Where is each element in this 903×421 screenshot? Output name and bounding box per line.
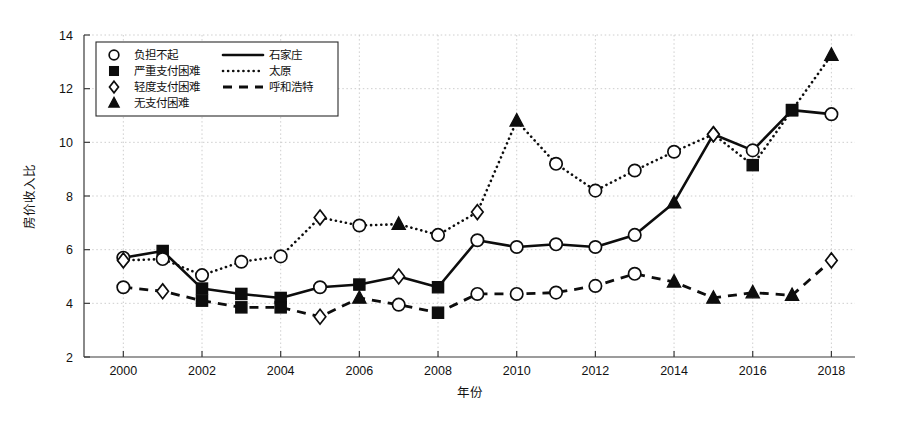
marker-circle-open bbox=[511, 241, 523, 253]
x-tick-label: 2000 bbox=[109, 364, 137, 378]
x-tick-label: 2018 bbox=[817, 364, 845, 378]
marker-diamond-open bbox=[826, 253, 838, 268]
marker-circle-open bbox=[589, 241, 601, 253]
x-tick-label: 2012 bbox=[581, 364, 609, 378]
x-tick-label: 2010 bbox=[503, 364, 531, 378]
marker-circle-open bbox=[747, 144, 759, 156]
marker-circle-open bbox=[235, 256, 247, 268]
marker-circle-open bbox=[471, 288, 483, 300]
marker-circle-open bbox=[471, 234, 483, 246]
series-呼和浩特 bbox=[117, 253, 837, 324]
marker-square-filled bbox=[236, 302, 247, 313]
marker-circle-open bbox=[353, 219, 365, 231]
y-tick-label: 4 bbox=[66, 297, 73, 311]
marker-circle-open bbox=[117, 281, 129, 293]
y-tick-label: 14 bbox=[59, 29, 73, 43]
marker-circle-open bbox=[629, 164, 641, 176]
marker-square-filled bbox=[786, 105, 797, 116]
marker-circle-open bbox=[314, 281, 326, 293]
marker-circle-open bbox=[392, 298, 404, 310]
legend-line-label: 石家庄 bbox=[269, 48, 302, 62]
marker-circle-open bbox=[629, 268, 641, 280]
marker-square-filled bbox=[747, 160, 758, 171]
marker-circle-open bbox=[668, 146, 680, 158]
y-tick-label: 2 bbox=[66, 351, 73, 365]
marker-circle-open bbox=[589, 280, 601, 292]
legend-line-label: 呼和浩特 bbox=[269, 80, 314, 94]
chart-figure: 2468101214200020022004200620082010201220… bbox=[0, 0, 903, 421]
x-tick-label: 2014 bbox=[660, 364, 688, 378]
marker-square-filled bbox=[432, 282, 443, 293]
marker-circle-open bbox=[550, 158, 562, 170]
x-axis-title: 年份 bbox=[457, 385, 483, 400]
marker-triangle-filled bbox=[825, 48, 838, 60]
marker-triangle-filled bbox=[510, 114, 523, 126]
marker-circle-open bbox=[196, 269, 208, 281]
x-tick-label: 2002 bbox=[188, 364, 216, 378]
legend-marker-label: 负担不起 bbox=[134, 48, 179, 62]
marker-diamond-open bbox=[157, 284, 169, 299]
legend-marker-label: 无支付困难 bbox=[134, 96, 189, 110]
y-tick-label: 8 bbox=[66, 190, 73, 204]
legend-marker-label: 严重支付困难 bbox=[134, 64, 200, 78]
series-markers bbox=[117, 253, 837, 324]
marker-diamond-open bbox=[314, 210, 326, 225]
y-tick-label: 10 bbox=[59, 136, 73, 150]
marker-circle-open bbox=[511, 288, 523, 300]
marker-square-filled bbox=[354, 279, 365, 290]
x-tick-label: 2008 bbox=[424, 364, 452, 378]
marker-circle-open bbox=[550, 238, 562, 250]
marker-triangle-filled bbox=[746, 285, 759, 297]
marker-circle-open bbox=[109, 50, 119, 60]
chart-canvas: 2468101214200020022004200620082010201220… bbox=[0, 0, 903, 421]
marker-circle-open bbox=[274, 250, 286, 262]
marker-diamond-open bbox=[393, 269, 405, 284]
legend-line-label: 太原 bbox=[269, 64, 291, 78]
marker-circle-open bbox=[589, 184, 601, 196]
x-tick-label: 2006 bbox=[345, 364, 373, 378]
marker-triangle-filled bbox=[667, 196, 680, 208]
marker-triangle-filled bbox=[353, 291, 366, 303]
y-tick-label: 12 bbox=[59, 82, 73, 96]
x-tick-label: 2004 bbox=[267, 364, 295, 378]
marker-circle-open bbox=[156, 253, 168, 265]
marker-diamond-open bbox=[472, 205, 484, 220]
marker-square-filled bbox=[275, 302, 286, 313]
marker-triangle-filled bbox=[392, 217, 405, 229]
marker-square-filled bbox=[196, 283, 207, 294]
marker-circle-open bbox=[825, 108, 837, 120]
marker-circle-open bbox=[629, 229, 641, 241]
marker-square-filled bbox=[236, 288, 247, 299]
marker-square-filled bbox=[196, 295, 207, 306]
marker-square-filled bbox=[110, 67, 119, 76]
y-tick-label: 6 bbox=[66, 243, 73, 257]
marker-square-filled bbox=[432, 307, 443, 318]
marker-circle-open bbox=[550, 286, 562, 298]
marker-diamond-open bbox=[314, 309, 326, 324]
legend: 负担不起严重支付困难轻度支付困难无支付困难石家庄太原呼和浩特 bbox=[96, 42, 338, 116]
x-tick-label: 2016 bbox=[739, 364, 767, 378]
marker-circle-open bbox=[432, 229, 444, 241]
legend-marker-label: 轻度支付困难 bbox=[134, 80, 200, 94]
y-axis-title: 房价收入比 bbox=[22, 164, 37, 229]
